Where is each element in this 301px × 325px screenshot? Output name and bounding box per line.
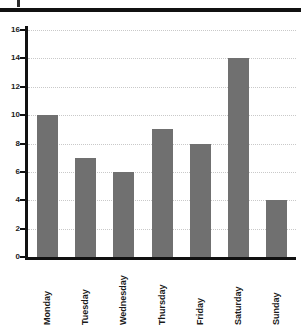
bar xyxy=(228,58,249,257)
y-axis-tick-label: 16 xyxy=(0,26,20,34)
y-axis-tick-label: 0 xyxy=(0,253,20,261)
gridline xyxy=(28,58,296,59)
gridline xyxy=(28,115,296,116)
y-axis-tick-label: 8 xyxy=(0,140,20,148)
y-axis-tick-label-text: 0 xyxy=(2,253,20,261)
y-axis-tick-label: 14 xyxy=(0,54,20,62)
header-divider-rule xyxy=(0,8,301,12)
y-axis-tick-label-text: 8 xyxy=(2,140,20,148)
x-axis-label-text: Sunday xyxy=(266,263,287,325)
gridline xyxy=(28,87,296,88)
gridline xyxy=(28,30,296,31)
bar xyxy=(190,144,211,258)
x-axis-label-text: Saturday xyxy=(228,263,249,325)
bar xyxy=(75,158,96,257)
bar-chart: 0246810121416 MondayTuesdayWednesdayThur… xyxy=(0,20,301,311)
y-axis-tick-label: 6 xyxy=(0,168,20,176)
x-axis-label-text: Wednesday xyxy=(113,263,134,325)
y-axis-line xyxy=(25,26,28,260)
y-axis-tick-label-text: 4 xyxy=(2,196,20,204)
x-axis-label: Wednesday xyxy=(113,263,134,325)
y-axis-tick-label: 2 xyxy=(0,225,20,233)
x-axis-label: Tuesday xyxy=(75,263,96,325)
x-axis-line xyxy=(25,257,296,260)
bar xyxy=(37,115,58,257)
y-axis-tick-label-text: 2 xyxy=(2,225,20,233)
x-axis-label-text: Tuesday xyxy=(75,263,96,325)
y-axis-tick-label-text: 14 xyxy=(2,54,20,62)
x-axis-label-text: Thursday xyxy=(152,263,173,325)
y-axis-tick-label: 12 xyxy=(0,83,20,91)
x-axis-label-text: Monday xyxy=(37,263,58,325)
cropped-header-glyph xyxy=(17,0,20,7)
y-axis-tick-label-text: 10 xyxy=(2,111,20,119)
y-axis-tick-label-text: 16 xyxy=(2,26,20,34)
x-axis-label: Sunday xyxy=(266,263,287,325)
y-axis-tick-label-text: 12 xyxy=(2,83,20,91)
x-axis-label: Thursday xyxy=(152,263,173,325)
y-axis-tick-label-text: 6 xyxy=(2,168,20,176)
y-axis-tick-label: 4 xyxy=(0,196,20,204)
x-axis-label-text: Friday xyxy=(190,263,211,325)
x-axis-label: Monday xyxy=(37,263,58,325)
bar xyxy=(266,200,287,257)
y-axis-tick-label: 10 xyxy=(0,111,20,119)
bar xyxy=(113,172,134,257)
bar xyxy=(152,129,173,257)
x-axis-label: Friday xyxy=(190,263,211,325)
x-axis-label: Saturday xyxy=(228,263,249,325)
